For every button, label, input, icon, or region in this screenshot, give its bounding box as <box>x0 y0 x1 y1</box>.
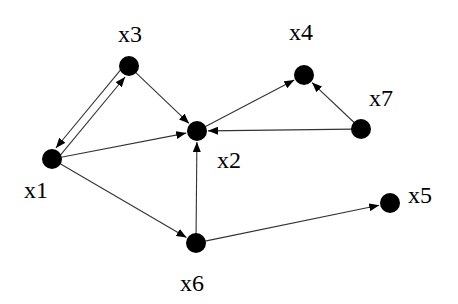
node-label-x7: x7 <box>369 86 393 110</box>
edge-x1-to-x2 <box>60 133 186 157</box>
node-label-x2: x2 <box>217 148 241 172</box>
edge-x7-to-x4 <box>312 83 355 124</box>
edge-x6-to-x2 <box>196 142 197 235</box>
node-x4 <box>294 65 314 85</box>
edge-x1-to-x6 <box>59 163 187 237</box>
node-x5 <box>380 193 400 213</box>
node-x1 <box>42 149 62 169</box>
node-x3 <box>119 56 139 76</box>
edge-x1-to-x3 <box>60 77 125 155</box>
node-label-x4: x4 <box>289 20 313 44</box>
node-x7 <box>351 119 371 139</box>
edge-x3-to-x1 <box>56 70 121 148</box>
node-x2 <box>187 121 207 141</box>
edge-x6-to-x5 <box>204 205 379 241</box>
node-label-x5: x5 <box>408 183 432 207</box>
edge-x7-to-x2 <box>208 129 353 131</box>
node-x6 <box>186 233 206 253</box>
node-label-x1: x1 <box>24 178 48 202</box>
edge-x3-to-x2 <box>135 72 189 124</box>
node-label-x3: x3 <box>118 22 142 46</box>
edge-x2-to-x4 <box>204 80 294 127</box>
node-label-x6: x6 <box>180 271 204 295</box>
